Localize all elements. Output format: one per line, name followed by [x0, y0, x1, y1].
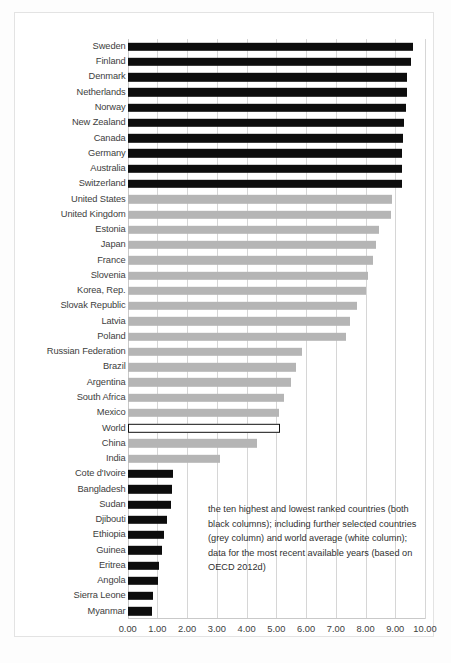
category-label-latvia: Latvia — [101, 317, 125, 326]
bar-switzerland[interactable] — [128, 180, 402, 188]
bar-bangladesh[interactable] — [128, 485, 172, 493]
bar-denmark[interactable] — [128, 73, 408, 81]
gridline-10.00 — [425, 39, 426, 619]
bar-india[interactable] — [128, 455, 220, 463]
bar-latvia[interactable] — [128, 317, 350, 325]
bar-row: Canada — [128, 131, 425, 146]
bar-row: Australia — [128, 161, 425, 176]
bar-row: Denmark — [128, 70, 425, 85]
bar-united-kingdom[interactable] — [128, 210, 391, 218]
x-tick-label: 6.00 — [297, 625, 315, 634]
bar-row: Myanmar — [128, 604, 425, 619]
bar-row: Russian Federation — [128, 344, 425, 359]
chart-frame: SwedenFinlandDenmarkNetherlandsNorwayNew… — [14, 12, 434, 637]
bar-sudan[interactable] — [128, 500, 171, 508]
bar-row: France — [128, 253, 425, 268]
bar-row: Japan — [128, 237, 425, 252]
bar-row: South Africa — [128, 390, 425, 405]
bar-row: Cote d'Ivoire — [128, 466, 425, 481]
bar-united-states[interactable] — [128, 195, 392, 203]
bar-sierra-leone[interactable] — [128, 592, 154, 600]
bar-germany[interactable] — [128, 149, 403, 157]
bar-canada[interactable] — [128, 134, 403, 142]
category-label-eritrea: Eritrea — [99, 561, 126, 570]
category-label-brazil: Brazil — [103, 362, 126, 371]
figure-container: SwedenFinlandDenmarkNetherlandsNorwayNew… — [0, 0, 451, 663]
category-label-netherlands: Netherlands — [77, 88, 126, 97]
bar-france[interactable] — [128, 256, 373, 264]
x-tick-label: 4.00 — [238, 625, 256, 634]
bar-row: Latvia — [128, 314, 425, 329]
bar-poland[interactable] — [128, 332, 346, 340]
category-label-bangladesh: Bangladesh — [78, 485, 126, 494]
bar-row: China — [128, 436, 425, 451]
bar-eritrea[interactable] — [128, 561, 159, 569]
category-label-poland: Poland — [97, 332, 125, 341]
category-label-ethiopia: Ethiopia — [93, 530, 126, 539]
category-label-cote-d-ivoire: Cote d'Ivoire — [75, 469, 126, 478]
bar-row: Germany — [128, 146, 425, 161]
bar-ethiopia[interactable] — [128, 531, 165, 539]
category-label-slovak-republic: Slovak Republic — [60, 301, 125, 310]
bar-china[interactable] — [128, 439, 258, 447]
x-tick-label: 1.00 — [148, 625, 166, 634]
bar-netherlands[interactable] — [128, 88, 407, 96]
bar-korea-rep[interactable] — [128, 287, 366, 295]
bar-myanmar[interactable] — [128, 607, 153, 615]
bar-row: Bangladesh — [128, 482, 425, 497]
bar-russian-federation[interactable] — [128, 348, 302, 356]
bar-finland[interactable] — [128, 58, 411, 66]
category-label-sweden: Sweden — [93, 42, 126, 51]
bar-south-africa[interactable] — [128, 393, 284, 401]
bar-australia[interactable] — [128, 165, 402, 173]
category-label-finland: Finland — [96, 57, 126, 66]
bar-djibouti[interactable] — [128, 516, 167, 524]
bar-estonia[interactable] — [128, 226, 380, 234]
bar-row: World — [128, 421, 425, 436]
category-label-russian-federation: Russian Federation — [47, 347, 126, 356]
bar-row: Mexico — [128, 405, 425, 420]
bar-slovenia[interactable] — [128, 271, 368, 279]
bar-angola[interactable] — [128, 577, 158, 585]
bar-row: United Kingdom — [128, 207, 425, 222]
bar-mexico[interactable] — [128, 409, 280, 417]
category-label-united-states: United States — [71, 195, 126, 204]
category-label-united-kingdom: United Kingdom — [61, 210, 126, 219]
bar-row: Netherlands — [128, 85, 425, 100]
bar-row: Norway — [128, 100, 425, 115]
bar-row: Brazil — [128, 360, 425, 375]
category-label-india: India — [106, 454, 126, 463]
bar-row: Sweden — [128, 39, 425, 54]
x-tick-label: 3.00 — [208, 625, 226, 634]
bar-guinea[interactable] — [128, 546, 162, 554]
x-tick-label: 8.00 — [356, 625, 374, 634]
bar-row: India — [128, 451, 425, 466]
bar-row: Argentina — [128, 375, 425, 390]
bar-brazil[interactable] — [128, 363, 296, 371]
bar-argentina[interactable] — [128, 378, 291, 386]
bar-row: Angola — [128, 573, 425, 588]
bar-new-zealand[interactable] — [128, 119, 404, 127]
bar-norway[interactable] — [128, 103, 407, 111]
category-label-slovenia: Slovenia — [91, 271, 126, 280]
category-label-china: China — [102, 439, 126, 448]
category-label-australia: Australia — [90, 164, 125, 173]
x-tick-label: 10.00 — [413, 625, 436, 634]
chart-annotation-text: the ten highest and lowest ranked countr… — [208, 502, 424, 575]
x-tick-label: 5.00 — [267, 625, 285, 634]
category-label-guinea: Guinea — [96, 546, 125, 555]
x-tick-label: 2.00 — [178, 625, 196, 634]
category-label-japan: Japan — [101, 240, 126, 249]
category-label-sudan: Sudan — [99, 500, 125, 509]
bar-japan[interactable] — [128, 241, 376, 249]
bar-row: Switzerland — [128, 176, 425, 191]
category-label-djibouti: Djibouti — [95, 515, 125, 524]
bar-row: Finland — [128, 54, 425, 69]
bar-sweden[interactable] — [128, 42, 413, 50]
bar-world[interactable] — [128, 424, 281, 432]
bar-row: Slovenia — [128, 268, 425, 283]
category-label-sierra-leone: Sierra Leone — [74, 591, 126, 600]
bar-slovak-republic[interactable] — [128, 302, 357, 310]
bar-row: Poland — [128, 329, 425, 344]
bar-cote-d-ivoire[interactable] — [128, 470, 174, 478]
